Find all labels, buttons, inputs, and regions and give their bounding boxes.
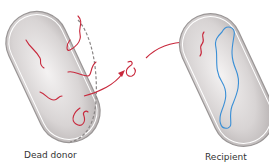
- released-dna-fragment: [126, 61, 135, 76]
- donor-label: Dead donor: [24, 150, 77, 160]
- donor-cell: [0, 1, 110, 152]
- recipient-cell: [169, 3, 269, 156]
- recipient-label: Recipient: [205, 152, 247, 162]
- transformation-diagram: [0, 0, 269, 164]
